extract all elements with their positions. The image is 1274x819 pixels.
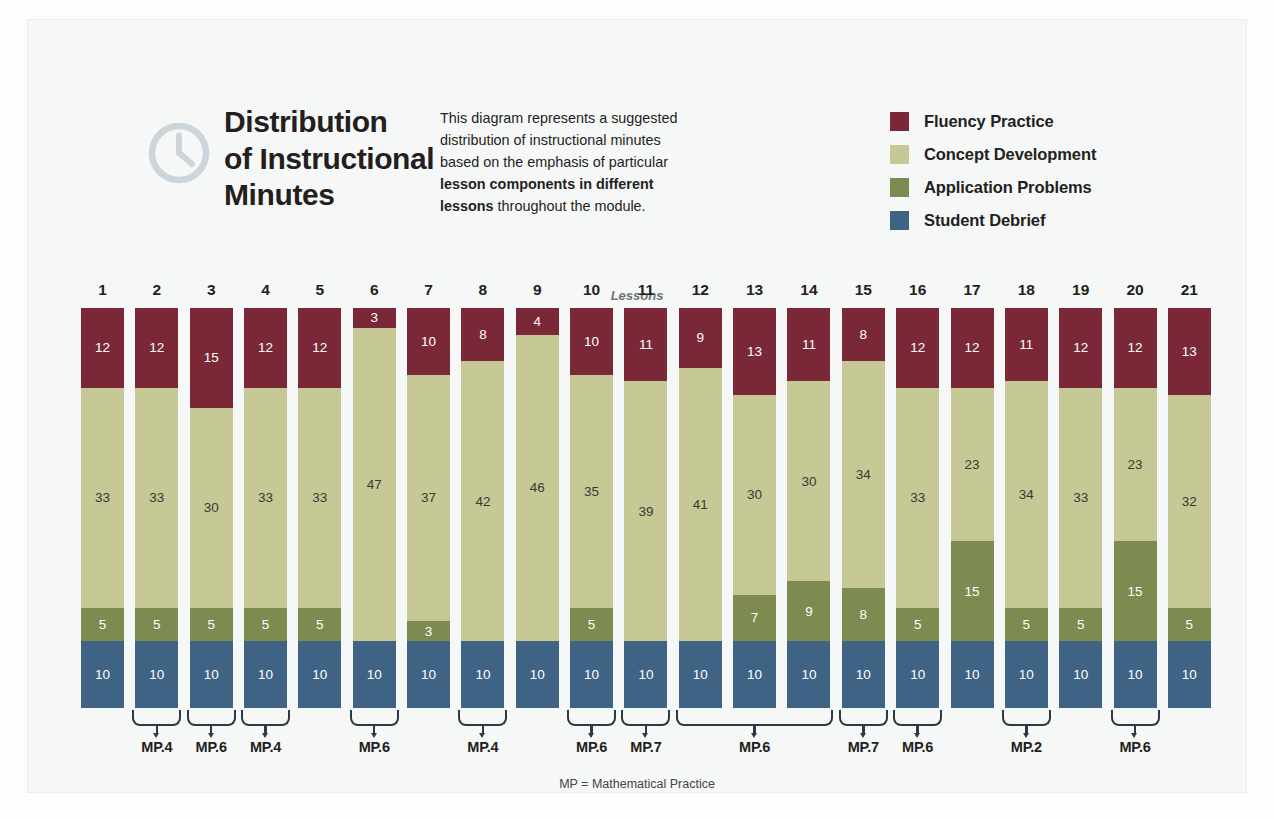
bar-segment-debrief[interactable]: 10 bbox=[244, 641, 287, 708]
bar-segment-application[interactable]: 5 bbox=[298, 608, 341, 641]
bar-segment-debrief[interactable]: 10 bbox=[516, 641, 559, 708]
bar-segment-fluency[interactable]: 12 bbox=[244, 308, 287, 388]
stacked-bar[interactable]: 44610 bbox=[516, 308, 559, 708]
bar-segment-fluency[interactable]: 11 bbox=[787, 308, 830, 381]
bar-segment-application[interactable]: 15 bbox=[1114, 541, 1157, 641]
bar-segment-application[interactable]: 5 bbox=[81, 608, 124, 641]
bar-segment-concept[interactable]: 33 bbox=[298, 388, 341, 608]
bar-segment-debrief[interactable]: 10 bbox=[842, 641, 885, 708]
bar-segment-debrief[interactable]: 10 bbox=[570, 641, 613, 708]
stacked-bar[interactable]: 1233510 bbox=[81, 308, 124, 708]
bar-segment-debrief[interactable]: 10 bbox=[787, 641, 830, 708]
bar-segment-debrief[interactable]: 10 bbox=[81, 641, 124, 708]
bar-segment-fluency[interactable]: 12 bbox=[298, 308, 341, 388]
bar-segment-debrief[interactable]: 10 bbox=[951, 641, 994, 708]
bar-segment-application[interactable]: 5 bbox=[896, 608, 939, 641]
bar-segment-application[interactable]: 5 bbox=[1059, 608, 1102, 641]
stacked-bar[interactable]: 12231510 bbox=[951, 308, 994, 708]
stacked-bar[interactable]: 834810 bbox=[842, 308, 885, 708]
bar-segment-application[interactable]: 3 bbox=[407, 621, 450, 641]
bar-segment-concept[interactable]: 39 bbox=[624, 381, 667, 641]
bar-segment-fluency[interactable]: 13 bbox=[733, 308, 776, 395]
bar-segment-application[interactable]: 5 bbox=[1168, 608, 1211, 641]
stacked-bar[interactable]: 1233510 bbox=[135, 308, 178, 708]
bar-segment-fluency[interactable]: 13 bbox=[1168, 308, 1211, 395]
bar-segment-concept[interactable]: 41 bbox=[679, 368, 722, 641]
bar-segment-debrief[interactable]: 10 bbox=[896, 641, 939, 708]
stacked-bar[interactable]: 113910 bbox=[624, 308, 667, 708]
bar-segment-fluency[interactable]: 10 bbox=[407, 308, 450, 375]
bar-segment-fluency[interactable]: 4 bbox=[516, 308, 559, 335]
bar-segment-debrief[interactable]: 10 bbox=[1059, 641, 1102, 708]
bar-segment-concept[interactable]: 33 bbox=[244, 388, 287, 608]
stacked-bar[interactable]: 1037310 bbox=[407, 308, 450, 708]
bar-segment-debrief[interactable]: 10 bbox=[461, 641, 504, 708]
stacked-bar[interactable]: 1530510 bbox=[190, 308, 233, 708]
bar-segment-concept[interactable]: 34 bbox=[842, 361, 885, 588]
bar-segment-application[interactable]: 5 bbox=[135, 608, 178, 641]
bar-segment-application[interactable]: 15 bbox=[951, 541, 994, 641]
bar-segment-debrief[interactable]: 10 bbox=[1005, 641, 1048, 708]
bar-segment-debrief[interactable]: 10 bbox=[190, 641, 233, 708]
bar-segment-concept[interactable]: 37 bbox=[407, 375, 450, 622]
bar-segment-fluency[interactable]: 3 bbox=[353, 308, 396, 328]
bar-segment-debrief[interactable]: 10 bbox=[135, 641, 178, 708]
stacked-bar[interactable]: 34710 bbox=[353, 308, 396, 708]
bar-segment-application[interactable]: 9 bbox=[787, 581, 830, 641]
bar-segment-concept[interactable]: 35 bbox=[570, 375, 613, 608]
stacked-bar[interactable]: 12231510 bbox=[1114, 308, 1157, 708]
bar-segment-fluency[interactable]: 8 bbox=[461, 308, 504, 361]
stacked-bar[interactable]: 1134510 bbox=[1005, 308, 1048, 708]
bar-segment-concept[interactable]: 23 bbox=[951, 388, 994, 541]
bar-segment-concept[interactable]: 33 bbox=[135, 388, 178, 608]
bar-segment-application[interactable]: 7 bbox=[733, 595, 776, 642]
bar-segment-fluency[interactable]: 12 bbox=[1114, 308, 1157, 388]
bar-segment-fluency[interactable]: 9 bbox=[679, 308, 722, 368]
stacked-bar[interactable]: 1233510 bbox=[298, 308, 341, 708]
bar-segment-fluency[interactable]: 12 bbox=[896, 308, 939, 388]
bar-segment-concept[interactable]: 47 bbox=[353, 328, 396, 641]
bar-segment-fluency[interactable]: 8 bbox=[842, 308, 885, 361]
bar-segment-debrief[interactable]: 10 bbox=[1114, 641, 1157, 708]
bar-segment-concept[interactable]: 23 bbox=[1114, 388, 1157, 541]
bar-segment-concept[interactable]: 30 bbox=[190, 408, 233, 608]
bar-segment-fluency[interactable]: 12 bbox=[951, 308, 994, 388]
stacked-bar[interactable]: 1130910 bbox=[787, 308, 830, 708]
bar-segment-application[interactable]: 5 bbox=[570, 608, 613, 641]
bar-segment-fluency[interactable]: 12 bbox=[1059, 308, 1102, 388]
stacked-bar[interactable]: 1233510 bbox=[896, 308, 939, 708]
stacked-bar[interactable]: 1233510 bbox=[244, 308, 287, 708]
bar-segment-application[interactable]: 8 bbox=[842, 588, 885, 641]
bar-segment-fluency[interactable]: 12 bbox=[81, 308, 124, 388]
bar-segment-concept[interactable]: 32 bbox=[1168, 395, 1211, 608]
stacked-bar[interactable]: 1035510 bbox=[570, 308, 613, 708]
bar-segment-fluency[interactable]: 12 bbox=[135, 308, 178, 388]
bar-segment-debrief[interactable]: 10 bbox=[353, 641, 396, 708]
bar-segment-debrief[interactable]: 10 bbox=[679, 641, 722, 708]
bar-segment-concept[interactable]: 33 bbox=[896, 388, 939, 608]
bar-segment-debrief[interactable]: 10 bbox=[407, 641, 450, 708]
bar-segment-debrief[interactable]: 10 bbox=[624, 641, 667, 708]
bar-segment-concept[interactable]: 46 bbox=[516, 335, 559, 642]
bar-segment-concept[interactable]: 42 bbox=[461, 361, 504, 641]
bar-segment-concept[interactable]: 33 bbox=[81, 388, 124, 608]
bar-segment-concept[interactable]: 34 bbox=[1005, 381, 1048, 608]
bar-segment-fluency[interactable]: 11 bbox=[624, 308, 667, 381]
stacked-bar[interactable]: 1332510 bbox=[1168, 308, 1211, 708]
bar-segment-debrief[interactable]: 10 bbox=[733, 641, 776, 708]
bar-segment-debrief[interactable]: 10 bbox=[1168, 641, 1211, 708]
bar-segment-application[interactable]: 5 bbox=[190, 608, 233, 641]
bar-segment-concept[interactable]: 30 bbox=[787, 381, 830, 581]
bar-segment-application[interactable]: 5 bbox=[1005, 608, 1048, 641]
bar-segment-fluency[interactable]: 15 bbox=[190, 308, 233, 408]
stacked-bar[interactable]: 94110 bbox=[679, 308, 722, 708]
bar-segment-concept[interactable]: 30 bbox=[733, 395, 776, 595]
stacked-bar[interactable]: 1233510 bbox=[1059, 308, 1102, 708]
bar-segment-fluency[interactable]: 10 bbox=[570, 308, 613, 375]
bar-segment-concept[interactable]: 33 bbox=[1059, 388, 1102, 608]
bar-segment-debrief[interactable]: 10 bbox=[298, 641, 341, 708]
bar-segment-fluency[interactable]: 11 bbox=[1005, 308, 1048, 381]
stacked-bar[interactable]: 84210 bbox=[461, 308, 504, 708]
bar-segment-application[interactable]: 5 bbox=[244, 608, 287, 641]
stacked-bar[interactable]: 1330710 bbox=[733, 308, 776, 708]
